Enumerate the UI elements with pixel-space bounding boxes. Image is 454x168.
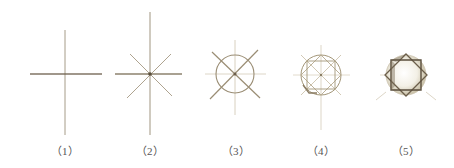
step-5-octagram xyxy=(376,54,436,100)
step-3-label: （3） xyxy=(216,142,256,158)
step-1-cross xyxy=(30,30,102,135)
step-4-inscribed-square xyxy=(293,45,350,130)
step-1-label: （1） xyxy=(45,142,85,158)
step-2-label: （2） xyxy=(130,142,170,158)
step-5-label: （5） xyxy=(386,142,426,158)
step-2-star xyxy=(115,12,182,135)
step-4-label: （4） xyxy=(301,142,341,158)
step-3-circle xyxy=(205,40,266,115)
